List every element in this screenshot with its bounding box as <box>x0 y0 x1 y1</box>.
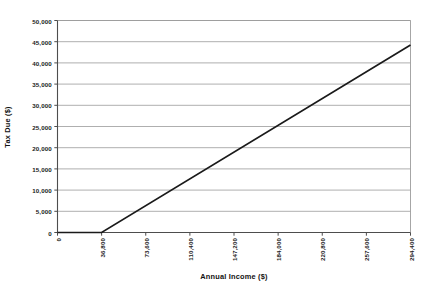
x-tick-label: 73,600 <box>142 238 149 258</box>
y-tick-label: 20,000 <box>8 144 52 151</box>
x-tick-label: 294,400 <box>407 238 414 261</box>
grid-lines <box>58 21 411 212</box>
y-tick-label: 50,000 <box>8 17 52 24</box>
y-tick-label: 0 <box>8 229 52 236</box>
x-tick-label: 0 <box>54 238 61 242</box>
y-tick-label: 30,000 <box>8 102 52 109</box>
x-tick-label: 220,800 <box>319 238 326 261</box>
y-tick-label: 25,000 <box>8 123 52 130</box>
y-tick-label: 15,000 <box>8 165 52 172</box>
y-tick-label: 40,000 <box>8 59 52 66</box>
x-tick-label: 184,000 <box>275 238 282 261</box>
y-tick-label: 35,000 <box>8 81 52 88</box>
y-tick-label: 10,000 <box>8 187 52 194</box>
y-tick-label: 45,000 <box>8 38 52 45</box>
x-tick-label: 257,600 <box>363 238 370 261</box>
chart-canvas <box>0 0 435 293</box>
x-tick-label: 36,800 <box>98 238 105 258</box>
y-tick-label: 5,000 <box>8 208 52 215</box>
x-tick-label: 110,400 <box>186 238 193 261</box>
x-tick-label: 147,200 <box>231 238 238 261</box>
tax-due-line-chart: 05,00010,00015,00020,00025,00030,00035,0… <box>0 0 435 293</box>
y-axis-title: Tax Due ($) <box>3 97 12 157</box>
data-line-tax-due <box>58 45 411 232</box>
data-series-layer <box>58 45 411 232</box>
x-axis-title: Annual Income ($) <box>200 272 267 281</box>
